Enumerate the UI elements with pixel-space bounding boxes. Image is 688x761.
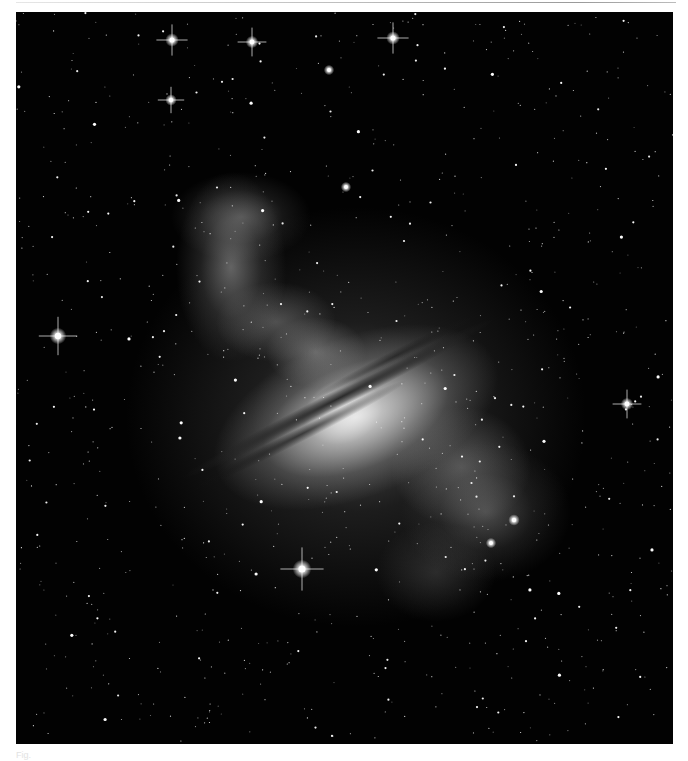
bright-star [39, 317, 77, 355]
bright-star [238, 28, 267, 57]
bright-star [508, 514, 519, 525]
bright-star [158, 87, 184, 113]
bright-stars [39, 22, 642, 590]
bright-star [280, 547, 323, 590]
galaxy-photo [16, 12, 673, 744]
top-rule [16, 2, 676, 3]
starfield [16, 12, 673, 744]
figure-caption: Fig. [16, 749, 676, 761]
bright-star [486, 538, 496, 548]
bright-star [341, 182, 351, 192]
bright-star [377, 22, 408, 53]
bright-star [156, 24, 187, 55]
bright-star [613, 390, 642, 419]
bright-star [324, 65, 334, 75]
faint-stars [16, 12, 673, 742]
